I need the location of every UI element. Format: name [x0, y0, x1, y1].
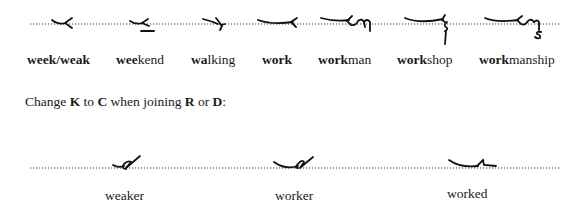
word-workshop: workshop — [397, 52, 453, 68]
word-week-weak: week/weak — [27, 52, 90, 68]
outline-worked — [449, 160, 496, 166]
outline-weaker — [113, 156, 140, 169]
word-weekend: weekend — [116, 52, 164, 68]
outline-work — [258, 18, 297, 27]
outline-workmanship — [485, 16, 541, 38]
word-walking: walking — [191, 52, 235, 68]
word-worker: worker — [275, 188, 313, 204]
word-work: work — [262, 52, 292, 68]
outline-workshop — [405, 15, 447, 44]
outline-week — [52, 18, 72, 28]
word-weaker: weaker — [105, 188, 144, 204]
instruction-text: Change K to C when joining R or D: — [25, 94, 226, 110]
outline-weekend — [130, 19, 154, 31]
word-workmanship: workmanship — [479, 52, 555, 68]
outline-worker — [274, 157, 313, 168]
word-workman: workman — [318, 52, 371, 68]
word-worked: worked — [447, 186, 488, 202]
